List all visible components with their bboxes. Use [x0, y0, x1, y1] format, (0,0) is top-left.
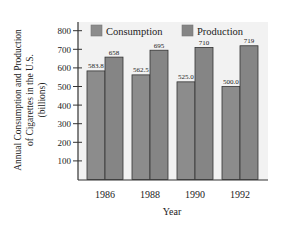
- y-tick-label: 600: [58, 63, 72, 73]
- bar-consumption-1988: [132, 75, 150, 180]
- data-label-production-1992: 719: [244, 37, 255, 45]
- data-label-production-1986: 658: [109, 49, 120, 57]
- y-axis-label-line-1: Annual Consumption and Production: [13, 29, 23, 171]
- x-ticks-group: 1986198819901992: [95, 189, 250, 200]
- bar-production-1986: [105, 57, 123, 179]
- y-axis-label-line-2: of Cigarettes in the U.S.: [25, 54, 35, 146]
- x-tick-label: 1986: [95, 189, 115, 200]
- data-label-consumption-1990: 525.0: [178, 73, 194, 81]
- bar-consumption-1990: [177, 82, 195, 180]
- data-label-production-1988: 695: [154, 42, 165, 50]
- y-tick-label: 200: [58, 138, 72, 148]
- legend-swatch-consumption: [91, 25, 102, 36]
- bar-chart: 583.8658562.5695525.0710500.0719 1002003…: [0, 0, 283, 227]
- y-tick-label: 300: [58, 119, 72, 129]
- bar-production-1990: [195, 47, 213, 179]
- y-axis-label: Annual Consumption and Production of Cig…: [13, 29, 48, 171]
- legend-label-consumption: Consumption: [106, 26, 163, 37]
- x-axis-label: Year: [163, 206, 182, 217]
- bar-consumption-1992: [222, 87, 240, 180]
- bar-production-1988: [150, 50, 168, 179]
- data-label-consumption-1986: 583.8: [88, 62, 104, 70]
- x-tick-label: 1988: [140, 189, 160, 200]
- data-label-consumption-1992: 500.0: [223, 78, 239, 86]
- data-label-consumption-1988: 562.5: [133, 66, 149, 74]
- y-tick-label: 100: [58, 156, 72, 166]
- y-axis-label-line-3: (billions): [37, 83, 48, 118]
- x-tick-label: 1990: [185, 189, 205, 200]
- legend-swatch-production: [182, 25, 193, 36]
- data-label-production-1990: 710: [199, 39, 210, 47]
- legend-label-production: Production: [197, 26, 244, 37]
- y-tick-label: 500: [58, 82, 72, 92]
- bar-consumption-1986: [87, 71, 105, 180]
- bar-production-1992: [240, 46, 258, 180]
- y-tick-label: 800: [58, 26, 72, 36]
- y-tick-label: 400: [58, 101, 72, 111]
- x-tick-label: 1992: [230, 189, 250, 200]
- y-tick-label: 700: [58, 45, 72, 55]
